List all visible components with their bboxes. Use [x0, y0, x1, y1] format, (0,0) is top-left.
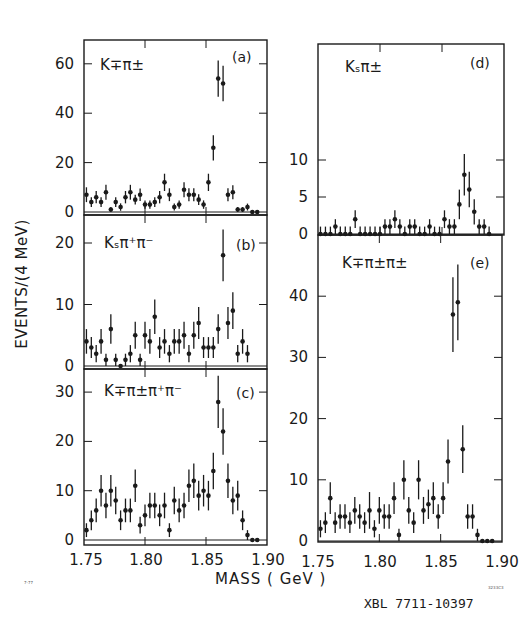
data-point [133, 483, 138, 488]
data-point [123, 358, 128, 363]
data-point [235, 493, 240, 498]
data-point [460, 447, 465, 452]
data-point [367, 508, 372, 513]
data-point [192, 192, 197, 197]
data-point [196, 197, 201, 202]
data-point [157, 195, 162, 200]
data-point [172, 339, 177, 344]
panel-title: Kₛπ⁺π⁻ [104, 234, 153, 252]
data-point [245, 533, 250, 538]
data-point [104, 358, 109, 363]
data-point [465, 514, 470, 519]
data-point [172, 205, 177, 210]
data-point [128, 351, 133, 356]
x-tick-left-1: 1.75 [69, 551, 102, 569]
data-point [167, 528, 172, 533]
data-point [148, 339, 153, 344]
plot-canvas: 0204060K∓π±(a)01020Kₛπ⁺π⁻(b)0102030K∓π±π… [0, 0, 521, 625]
data-point [177, 202, 182, 207]
data-point [128, 190, 133, 195]
data-point [152, 200, 157, 205]
data-point [426, 502, 431, 507]
y-tick-label: 40 [289, 287, 308, 305]
panel-d: 0510Kₛπ±(d) [289, 44, 504, 243]
data-point [143, 202, 148, 207]
panel-e: 010203040K∓π±π±(e) [289, 235, 502, 550]
data-point [138, 192, 143, 197]
data-point [250, 538, 255, 543]
data-point [383, 224, 388, 229]
y-tick-label: 0 [64, 531, 74, 549]
panel-a: 0204060K∓π±(a) [55, 40, 267, 221]
data-point [167, 351, 172, 356]
data-point [485, 539, 490, 544]
data-point [255, 210, 260, 215]
data-point [162, 503, 167, 508]
data-point [201, 202, 206, 207]
data-point [143, 513, 148, 518]
data-point [211, 345, 216, 350]
x-tick-right-2: 1.80 [363, 553, 396, 571]
data-point [162, 180, 167, 185]
data-point [138, 358, 143, 363]
data-point [133, 197, 138, 202]
data-point [123, 508, 128, 513]
data-point [177, 339, 182, 344]
data-point [152, 315, 157, 320]
panel-title: K∓π±π± [342, 254, 408, 272]
small-right-code: 3233C3 [488, 585, 504, 590]
data-point [206, 493, 211, 498]
x-tick-left-3: 1.85 [190, 551, 223, 569]
panel-tag: (e) [470, 255, 490, 271]
data-point [328, 496, 333, 501]
y-tick-label: 20 [289, 410, 308, 428]
data-point [143, 333, 148, 338]
data-point [447, 224, 452, 229]
data-point [446, 459, 451, 464]
panel-b: 01020Kₛπ⁺π⁻(b) [55, 215, 267, 375]
data-point [472, 210, 477, 215]
data-point [338, 514, 343, 519]
data-point [451, 312, 456, 317]
data-point [226, 192, 231, 197]
data-point [216, 76, 221, 81]
data-point [462, 173, 467, 178]
data-point [211, 145, 216, 150]
y-tick-label: 10 [289, 471, 308, 489]
figure: 0204060K∓π±(a)01020Kₛπ⁺π⁻(b)0102030K∓π±π… [0, 0, 521, 625]
data-point [206, 180, 211, 185]
x-tick-left-4: 1.90 [251, 551, 284, 569]
data-point [152, 503, 157, 508]
data-point [231, 190, 236, 195]
data-point [192, 479, 197, 484]
data-point [235, 351, 240, 356]
data-point [382, 514, 387, 519]
panel-title: K∓π±π⁺π⁻ [104, 382, 182, 400]
data-point [216, 400, 221, 405]
y-axis-label: EVENTS/(4 MeV) [13, 219, 31, 349]
data-point [118, 364, 123, 369]
data-point [216, 327, 221, 332]
data-point [221, 81, 226, 86]
data-point [113, 358, 118, 363]
data-point [235, 207, 240, 212]
panel-c: 0102030K∓π±π⁺π⁻(c) [55, 369, 267, 549]
data-point [94, 195, 99, 200]
small-left-code: 7-77 [24, 580, 33, 585]
data-point [407, 224, 412, 229]
data-point [89, 200, 94, 205]
data-point [221, 253, 226, 258]
data-point [372, 526, 377, 531]
panel-tag: (b) [236, 237, 256, 253]
data-point [452, 224, 457, 229]
data-point [187, 192, 192, 197]
data-point [104, 503, 109, 508]
data-point [470, 514, 475, 519]
data-point [475, 533, 480, 538]
y-tick-label: 0 [64, 203, 74, 221]
data-point [353, 508, 358, 513]
data-point [196, 493, 201, 498]
data-point [128, 508, 133, 513]
data-point [94, 351, 99, 356]
data-point [231, 308, 236, 313]
